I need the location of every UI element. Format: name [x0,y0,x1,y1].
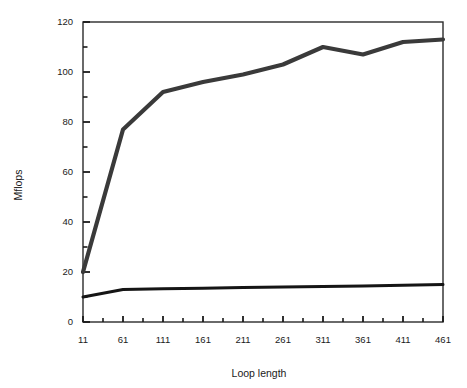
x-axis-tick-label: 261 [275,334,291,345]
y-axis-tick-label: 100 [57,66,73,77]
x-axis-tick-label: 411 [395,334,410,345]
y-axis-tick-label: 60 [62,166,73,177]
chart-background [0,0,467,388]
y-axis-tick-label: 20 [62,266,73,277]
y-axis-title: Mflops [12,170,24,201]
x-axis-tick-label: 161 [195,334,211,345]
x-axis-tick-label: 61 [118,334,129,345]
y-axis-tick-label: 120 [57,16,73,27]
x-axis-tick-label: 311 [315,334,330,345]
y-axis-tick-label: 80 [62,116,73,127]
y-axis-tick-label: 0 [68,316,73,327]
y-axis-tick-label: 40 [62,216,73,227]
x-axis-tick-label: 361 [355,334,371,345]
x-axis-tick-label: 11 [78,334,88,345]
x-axis-tick-label: 211 [235,334,250,345]
line-chart: 020406080100120 116111116121126131136141… [0,0,467,388]
x-axis-title: Loop length [232,367,287,379]
chart-container: 020406080100120 116111116121126131136141… [0,0,467,388]
x-axis-tick-label: 461 [435,334,451,345]
x-axis-tick-label: 111 [156,334,170,345]
